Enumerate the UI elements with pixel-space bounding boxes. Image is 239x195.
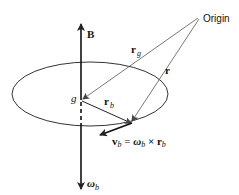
svg-text:ω: ω	[87, 177, 95, 189]
svg-text:vb = ωb × rb: vb = ωb × rb	[112, 135, 166, 149]
r-g-vector	[83, 18, 198, 99]
omega-b-label: ω b	[87, 177, 99, 192]
svg-text:g: g	[137, 49, 141, 58]
origin-label: Origin	[203, 13, 230, 24]
r-label: r	[165, 64, 170, 76]
gyration-diagram: Origin B g r g r r b vb = ωb × rb ω b	[0, 0, 239, 195]
g-label: g	[71, 92, 77, 104]
svg-text:r: r	[131, 43, 136, 55]
b-field-label: B	[87, 28, 95, 40]
v-b-vector	[100, 123, 132, 135]
svg-text:b: b	[110, 101, 114, 110]
r-g-label: r g	[131, 43, 141, 58]
r-b-label: r b	[104, 95, 114, 110]
svg-text:r: r	[104, 95, 109, 107]
svg-text:b: b	[95, 183, 99, 192]
v-b-equation: vb = ωb × rb	[112, 135, 166, 149]
